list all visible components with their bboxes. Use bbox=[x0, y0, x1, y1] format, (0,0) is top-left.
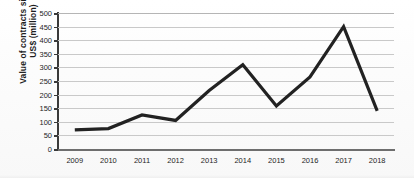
y-tick-label: 200 bbox=[39, 90, 52, 99]
series-line bbox=[58, 13, 394, 149]
x-tick-label: 2018 bbox=[369, 156, 386, 165]
x-tick-label: 2012 bbox=[167, 156, 184, 165]
x-tick-label: 2015 bbox=[268, 156, 285, 165]
y-tick-mark bbox=[54, 149, 58, 151]
x-tick-label: 2010 bbox=[100, 156, 117, 165]
y-tick-label: 100 bbox=[39, 117, 52, 126]
page-edge bbox=[0, 175, 414, 178]
x-tick-label: 2011 bbox=[134, 156, 150, 165]
y-tick-label: 300 bbox=[39, 63, 52, 72]
x-tick-label: 2017 bbox=[335, 156, 352, 165]
y-tick-label: 400 bbox=[39, 36, 52, 45]
y-tick-label: 0 bbox=[48, 145, 52, 154]
x-tick-label: 2013 bbox=[201, 156, 218, 165]
y-tick-label: 450 bbox=[39, 22, 52, 31]
x-tick-label: 2014 bbox=[234, 156, 251, 165]
y-tick-label: 50 bbox=[44, 131, 52, 140]
x-tick-label: 2009 bbox=[66, 156, 83, 165]
y-tick-label: 500 bbox=[39, 9, 52, 18]
y-axis-title-line-1: Value of contracts signed bbox=[18, 0, 29, 84]
line-chart: Value of contracts signed US$ (million) … bbox=[0, 0, 414, 178]
plot-area: 050100150200250300350400450500 bbox=[58, 13, 394, 149]
x-tick-label: 2016 bbox=[302, 156, 319, 165]
gridline bbox=[58, 149, 394, 150]
y-axis-title-line-2: US$ (million) bbox=[28, 4, 39, 57]
y-tick-label: 150 bbox=[39, 104, 52, 113]
y-tick-label: 350 bbox=[39, 49, 52, 58]
y-tick-label: 250 bbox=[39, 77, 52, 86]
